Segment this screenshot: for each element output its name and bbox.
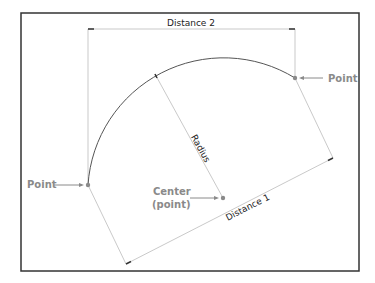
radius-arrow [155, 74, 157, 78]
center-arrowhead-icon [214, 196, 219, 200]
point-left-arrowhead-icon [79, 183, 84, 187]
frame-border [21, 13, 359, 271]
arc-diagram: Distance 2 Distance 1 Radius Point Point… [0, 0, 375, 283]
point-right-label: Point [328, 73, 358, 84]
point-left-marker [86, 183, 90, 187]
distance-1-extension-left [88, 185, 126, 264]
point-left-label: Point [27, 179, 57, 190]
point-right-arrowhead-icon [299, 76, 304, 80]
distance-1-extension-right [295, 78, 333, 158]
radius-label: Radius [189, 133, 213, 165]
center-point-marker [221, 196, 225, 200]
center-label-line1: Center [153, 186, 191, 197]
distance-1-arrow-right [328, 158, 333, 161]
distance-1-label: Distance 1 [224, 192, 271, 223]
distance-2-label: Distance 2 [167, 18, 215, 28]
arc [88, 58, 295, 185]
point-right-marker [293, 76, 297, 80]
center-label-line2: (point) [152, 199, 191, 210]
distance-1-arrow-left [126, 262, 131, 265]
radius-line [155, 74, 223, 198]
